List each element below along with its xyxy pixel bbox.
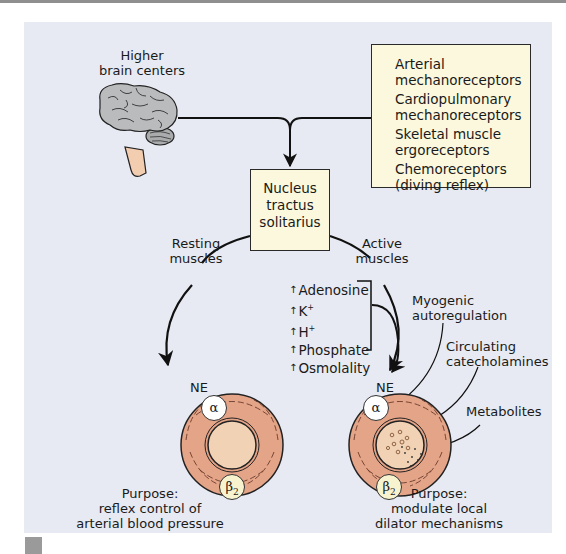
nucleus-tractus-solitarius-box: Nucleus tractus solitarius	[250, 169, 330, 251]
up-arrow-icon: ↑	[289, 326, 297, 337]
metabolite-adenosine: ↑Adenosine	[289, 281, 370, 299]
left-purpose-line2: reflex control of	[70, 501, 230, 516]
left-purpose-line3: arterial blood pressure	[70, 516, 230, 531]
alpha-receptor-icon: α	[201, 395, 227, 421]
receptor-item: Skeletal muscle	[395, 126, 530, 142]
alpha-receptor-icon: α	[363, 395, 389, 421]
metabolite-text: Osmolality	[298, 360, 370, 376]
nts-line: tractus	[251, 197, 329, 214]
receptor-item: (diving reflex)	[395, 177, 530, 193]
myogenic-line2: autoregulation	[412, 308, 507, 323]
higher-brain-line1: Higher	[92, 48, 192, 63]
metabolite-osmolality: ↑Osmolality	[289, 359, 370, 377]
charge-superscript: +	[309, 324, 316, 333]
up-arrow-icon: ↑	[289, 305, 297, 316]
receptors-box: Arterial mechanoreceptors Cardiopulmonar…	[371, 44, 531, 188]
higher-brain-line2: brain centers	[92, 63, 192, 78]
metabolite-list: ↑Adenosine ↑K+ ↑H+ ↑Phosphate ↑Osmolalit…	[289, 281, 370, 377]
receptor-item: mechanoreceptors	[395, 72, 530, 88]
active-line1: Active	[346, 236, 418, 251]
up-arrow-icon: ↑	[289, 362, 297, 373]
catecholamines-label: Circulating catecholamines	[446, 339, 548, 369]
receptor-item: mechanoreceptors	[395, 107, 530, 123]
beta-subscript: 2	[233, 487, 239, 497]
metabolite-phosphate: ↑Phosphate	[289, 341, 370, 359]
brain-icon	[100, 84, 177, 177]
metabolite-potassium: ↑K+	[289, 299, 370, 320]
higher-brain-label: Higher brain centers	[92, 48, 192, 78]
left-purpose-line1: Purpose:	[70, 486, 230, 501]
right-purpose-label: Purpose: modulate local dilator mechanis…	[364, 486, 514, 531]
right-purpose-line3: dilator mechanisms	[364, 516, 514, 531]
myogenic-label: Myogenic autoregulation	[412, 293, 507, 323]
metabolite-text: Adenosine	[298, 282, 368, 298]
resting-line1: Resting	[160, 236, 232, 251]
metabolite-text: Phosphate	[298, 342, 369, 358]
receptor-item: Chemoreceptors	[395, 161, 530, 177]
receptor-item: Cardiopulmonary	[395, 91, 530, 107]
myogenic-line1: Myogenic	[412, 293, 507, 308]
receptor-item: ergoreceptors	[395, 142, 530, 158]
resting-muscles-label: Resting muscles	[160, 236, 232, 266]
metabolite-text: H	[298, 324, 308, 340]
nts-line: solitarius	[251, 214, 329, 231]
metabolite-hydrogen: ↑H+	[289, 320, 370, 341]
right-purpose-line2: modulate local	[364, 501, 514, 516]
nts-line: Nucleus	[251, 180, 329, 197]
receptor-item: Arterial	[395, 56, 530, 72]
right-ne-label: NE	[376, 380, 394, 395]
charge-superscript: +	[307, 303, 314, 312]
active-muscles-label: Active muscles	[346, 236, 418, 266]
left-purpose-label: Purpose: reflex control of arterial bloo…	[70, 486, 230, 531]
active-line2: muscles	[346, 251, 418, 266]
up-arrow-icon: ↑	[289, 344, 297, 355]
right-purpose-line1: Purpose:	[364, 486, 514, 501]
metabolite-text: K	[298, 303, 307, 319]
catecholamines-line2: catecholamines	[446, 354, 548, 369]
catecholamines-line1: Circulating	[446, 339, 548, 354]
up-arrow-icon: ↑	[289, 284, 297, 295]
resting-line2: muscles	[160, 251, 232, 266]
left-ne-label: NE	[190, 380, 208, 395]
metabolites-label: Metabolites	[466, 404, 542, 419]
